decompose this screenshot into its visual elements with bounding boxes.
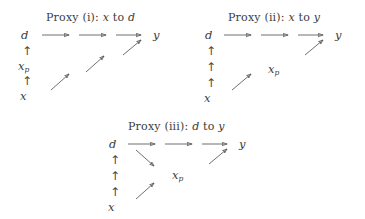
panel-ii-node-x: x <box>204 93 211 105</box>
panel-iii-title: Proxy (iii): d to y <box>128 120 225 133</box>
panel-ii-title-prefix: Proxy (ii): <box>228 11 288 24</box>
panel-iii-node-y: y <box>239 139 246 151</box>
panel-iii-title-prefix: Proxy (iii): <box>128 120 192 133</box>
panel-i-title-mid: to <box>109 11 128 24</box>
panel-i-node-d: d <box>21 30 28 42</box>
panel-ii-title: Proxy (ii): x to y <box>228 11 320 24</box>
panel-ii-title-mid: to <box>295 11 314 24</box>
panel-iii-title-to: y <box>218 120 224 133</box>
panel-i-title-prefix: Proxy (i): <box>46 11 103 24</box>
panel-i-diagonal-arrows <box>51 40 141 90</box>
panel-iii-node-x: x <box>108 202 115 214</box>
panel-i-node-y: y <box>153 30 160 42</box>
panel-ii-tick-3: ↑ <box>206 77 216 89</box>
panel-i-title-to: d <box>128 11 135 24</box>
panel-ii-node-y: y <box>335 30 342 42</box>
panel-i-node-xp: xp <box>18 61 29 73</box>
panel-ii-node-xp: xp <box>268 64 279 76</box>
panel-i-title: Proxy (i): x to d <box>46 11 135 24</box>
panel-ii-tick-2: ↑ <box>206 61 216 73</box>
panel-ii-tick-1: ↑ <box>206 45 216 57</box>
panel-ii-title-to: y <box>314 11 320 24</box>
panel-iii-title-mid: to <box>199 120 218 133</box>
panel-i-tick-1: ↑ <box>22 45 32 57</box>
panel-iii-tick-2: ↑ <box>110 170 120 182</box>
panel-iii-tick-1: ↑ <box>110 154 120 166</box>
arrow-layer <box>0 0 365 219</box>
panel-iii-node-xp: xp <box>172 170 183 182</box>
panel-i-node-x: x <box>20 91 27 103</box>
panel-i-tick-2: ↑ <box>22 75 32 87</box>
proxy-diagram-figure: Proxy (i): x to d d ↑ xp ↑ x y Proxy (ii… <box>0 0 365 219</box>
panel-iii-tick-3: ↑ <box>110 186 120 198</box>
panel-ii-node-d: d <box>205 30 212 42</box>
panel-iii-node-d: d <box>109 139 116 151</box>
